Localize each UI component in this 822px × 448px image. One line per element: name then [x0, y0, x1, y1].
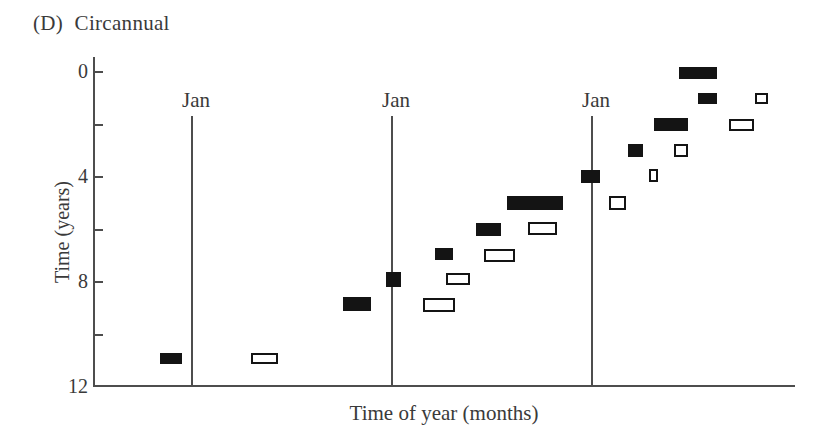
y-tick-label: 0 [38, 60, 88, 83]
filled-event-bar [628, 144, 643, 157]
jan-label: Jan [582, 88, 610, 113]
open-event-bar [484, 249, 516, 262]
y-axis-line [93, 57, 95, 387]
filled-event-bar [343, 297, 371, 311]
y-axis-tick [93, 229, 103, 231]
y-axis-tick [93, 124, 103, 126]
y-axis-tick [93, 281, 103, 283]
y-tick-label: 4 [38, 165, 88, 188]
filled-event-bar [679, 67, 717, 79]
jan-label: Jan [382, 88, 410, 113]
filled-event-bar [160, 353, 183, 364]
jan-label: Jan [182, 88, 210, 113]
open-event-bar [755, 93, 768, 104]
open-event-bar [528, 222, 557, 235]
y-axis-tick [93, 176, 103, 178]
x-axis-title: Time of year (months) [350, 401, 539, 426]
y-axis-tick [93, 71, 103, 73]
open-event-bar [649, 169, 658, 182]
filled-event-bar [476, 223, 501, 236]
open-event-bar [251, 353, 278, 364]
filled-event-bar [435, 248, 453, 260]
y-axis-title: Time (years) [51, 181, 74, 283]
open-event-bar [674, 144, 688, 157]
open-event-bar [446, 273, 470, 285]
filled-event-bar [698, 93, 717, 104]
open-event-bar [609, 196, 627, 210]
y-axis-tick [93, 334, 103, 336]
filled-event-bar [654, 118, 688, 131]
y-tick-label: 8 [38, 270, 88, 293]
filled-event-bar [581, 170, 600, 183]
figure-title: (D) Circannual [33, 11, 170, 36]
y-tick-label: 12 [38, 375, 88, 398]
open-event-bar [729, 119, 755, 131]
filled-event-bar [507, 196, 563, 210]
jan-reference-line [591, 116, 593, 386]
jan-reference-line [191, 116, 193, 386]
filled-event-bar [386, 272, 401, 287]
open-event-bar [423, 298, 456, 312]
x-axis-line [93, 385, 795, 387]
circannual-figure: (D) Circannual Time (years) Time of year… [0, 0, 822, 448]
jan-reference-line [391, 116, 393, 386]
